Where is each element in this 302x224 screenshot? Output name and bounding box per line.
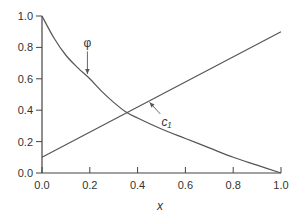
y-tick-label: 0.0	[18, 167, 33, 179]
x-tick-label: 0.6	[178, 179, 193, 191]
y-tick-label: 0.2	[18, 136, 33, 148]
y-tick-label: 0.4	[18, 104, 33, 116]
y-tick-label: 1.0	[18, 10, 33, 22]
annotations-layer: φc₁	[84, 36, 172, 128]
series-line-c1	[42, 32, 281, 158]
x-tick-label: 0.0	[34, 179, 49, 191]
axes: 0.00.20.40.60.81.00.00.20.40.60.81.0	[18, 10, 289, 191]
x-tick-label: 0.2	[82, 179, 97, 191]
annotation-label: c₁	[161, 115, 171, 129]
series-layer	[42, 16, 281, 173]
y-tick-label: 0.6	[18, 73, 33, 85]
x-tick-label: 0.4	[130, 179, 145, 191]
arrowhead-icon	[85, 69, 89, 74]
x-tick-label: 1.0	[273, 179, 288, 191]
x-axis-label: x	[156, 199, 164, 213]
chart-area: 0.00.20.40.60.81.00.00.20.40.60.81.0 φc₁…	[0, 0, 302, 224]
y-tick-label: 0.8	[18, 41, 33, 53]
x-tick-label: 0.8	[226, 179, 241, 191]
annotation-label: φ	[84, 36, 92, 50]
